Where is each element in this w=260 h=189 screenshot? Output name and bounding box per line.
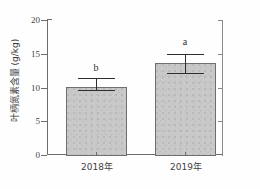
- y-tick-label-0: 0: [20, 151, 40, 160]
- error-bar-cap-upper-2018: [78, 78, 115, 79]
- y-tick-label-15: 15: [20, 50, 40, 59]
- error-bar-cap-lower-2019: [167, 73, 204, 74]
- right-spine-cap: [218, 20, 223, 21]
- x-tick-label-2019: 2019年: [160, 163, 212, 172]
- bar-2018: [66, 87, 127, 156]
- significance-letter-2019: a: [175, 37, 195, 47]
- right-spine: [222, 20, 223, 156]
- y-tick-label-20: 20: [20, 16, 40, 25]
- y-tick-label-10: 10: [20, 84, 40, 93]
- error-bar-line-2019: [185, 54, 186, 73]
- error-bar-cap-upper-2019: [167, 54, 204, 55]
- x-tick-mark-2018: [96, 152, 97, 156]
- chart-figure: 叶柄氮素含量 (g/kg) 20 15 10 5 0 b a 2018年 201…: [0, 0, 260, 189]
- y-tick-label-5: 5: [20, 117, 40, 126]
- error-bar-cap-lower-2018: [78, 90, 115, 91]
- x-tick-label-2018: 2018年: [71, 163, 123, 172]
- x-tick-mark-2019: [185, 152, 186, 156]
- significance-letter-2018: b: [86, 63, 106, 73]
- y-tick-mark-0: [41, 155, 47, 156]
- bar-2019: [155, 63, 216, 156]
- error-bar-line-2018: [96, 78, 97, 90]
